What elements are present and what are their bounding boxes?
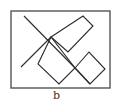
narrow-rectangle — [51, 16, 93, 52]
diagram-figure: b — [0, 0, 113, 104]
rising-line — [21, 37, 51, 67]
figure-caption: b — [0, 89, 113, 103]
right-diamond — [75, 52, 105, 84]
